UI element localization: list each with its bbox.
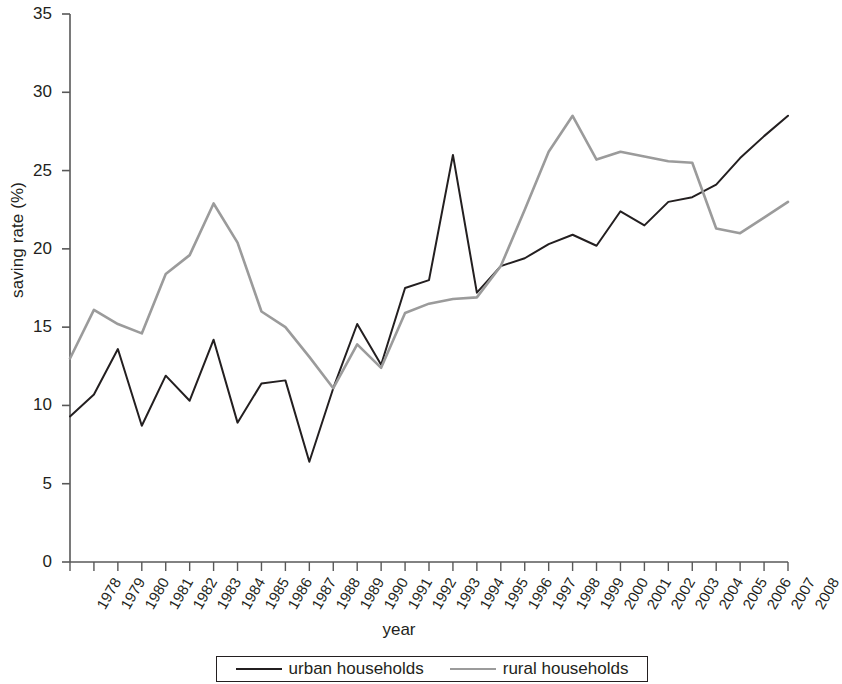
legend-label-rural: rural households	[503, 659, 629, 679]
chart-legend: urban households rural households	[216, 656, 648, 682]
series-line-rural	[70, 116, 788, 388]
legend-item-rural: rural households	[450, 659, 629, 679]
x-axis-title: year	[0, 620, 798, 640]
line-solid-gray-icon	[450, 668, 496, 670]
legend-label-urban: urban households	[289, 659, 424, 679]
legend-item-urban: urban households	[236, 659, 424, 679]
x-axis-tick-label: 2008	[812, 575, 842, 611]
series-line-urban	[70, 116, 788, 462]
line-solid-black-icon	[236, 668, 282, 670]
